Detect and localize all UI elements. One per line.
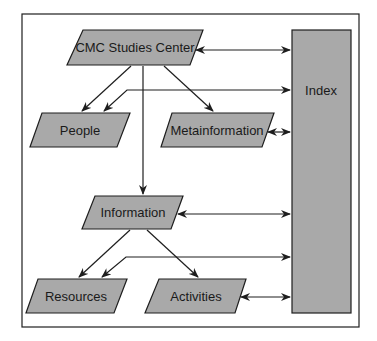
node-index-label: Index <box>305 83 337 98</box>
node-meta-label: Metainformation <box>170 123 263 138</box>
node-resources[interactable]: Resources <box>26 279 127 313</box>
node-people-label: People <box>60 123 100 138</box>
edge-index-people <box>104 90 290 111</box>
edge-info-resources <box>79 230 130 277</box>
node-information[interactable]: Information <box>82 196 183 229</box>
edge-cmc-people <box>82 66 131 111</box>
node-metainformation[interactable]: Metainformation <box>161 113 274 147</box>
node-index[interactable]: Index <box>292 30 351 313</box>
node-activities[interactable]: Activities <box>145 279 246 313</box>
node-cmc-studies-center[interactable]: CMC Studies Center <box>67 30 203 65</box>
node-cmc-label: CMC Studies Center <box>75 40 195 55</box>
node-resources-label: Resources <box>45 289 108 304</box>
edge-info-activities <box>147 230 198 277</box>
diagram-canvas: Index CMC Studies Center People Metainfo… <box>0 0 377 341</box>
node-info-label: Information <box>100 205 165 220</box>
edge-cmc-meta <box>164 66 213 111</box>
edge-index-resources <box>102 257 290 277</box>
node-people[interactable]: People <box>30 113 130 147</box>
node-activities-label: Activities <box>170 289 222 304</box>
diagram-svg: Index CMC Studies Center People Metainfo… <box>0 0 377 341</box>
